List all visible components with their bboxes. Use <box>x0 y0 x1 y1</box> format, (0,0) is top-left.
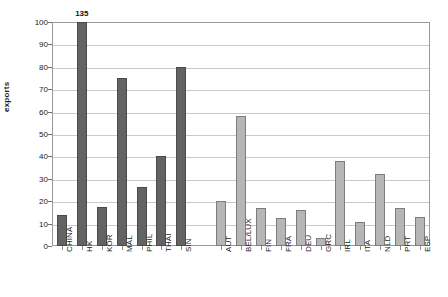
x-tick-label: CHINA <box>65 227 74 252</box>
x-tick-mark <box>321 246 322 250</box>
x-tick-label: BEL/LUX <box>244 218 253 252</box>
x-tick-mark <box>360 246 361 250</box>
x-tick-mark <box>340 246 341 250</box>
x-tick-label: FRA <box>284 236 293 252</box>
x-tick-label: FIN <box>264 239 273 252</box>
plot-area <box>52 22 430 246</box>
y-tick-mark <box>48 156 52 157</box>
y-tick-label: 0 <box>22 242 48 251</box>
bar-chart: exports 0102030405060708090100 CHINAHKKO… <box>0 0 448 297</box>
x-tick-mark <box>221 246 222 250</box>
x-tick-label: IRL <box>343 239 352 252</box>
y-tick-label: 10 <box>22 220 48 229</box>
x-tick-label: HK <box>85 241 94 252</box>
y-tick-label: 60 <box>22 108 48 117</box>
x-tick-label: PRT <box>403 236 412 252</box>
gridline <box>53 225 429 226</box>
y-tick-mark <box>48 224 52 225</box>
y-tick-label: 80 <box>22 63 48 72</box>
y-tick-mark <box>48 22 52 23</box>
y-tick-label: 50 <box>22 130 48 139</box>
gridline <box>53 90 429 91</box>
x-tick-mark <box>122 246 123 250</box>
y-tick-mark <box>48 67 52 68</box>
x-tick-mark <box>161 246 162 250</box>
x-tick-mark <box>261 246 262 250</box>
x-tick-label: THAI <box>164 233 173 252</box>
x-tick-label: PHIL <box>145 234 154 252</box>
x-tick-mark <box>62 246 63 250</box>
x-tick-label: KOR <box>105 234 114 252</box>
y-tick-mark <box>48 246 52 247</box>
y-tick-mark <box>48 179 52 180</box>
x-tick-mark <box>82 246 83 250</box>
x-tick-mark <box>400 246 401 250</box>
y-tick-mark <box>48 112 52 113</box>
bar-value-label: 135 <box>62 9 102 18</box>
x-tick-mark <box>142 246 143 250</box>
x-tick-mark <box>181 246 182 250</box>
gridline <box>53 202 429 203</box>
x-tick-label: ITA <box>363 240 372 252</box>
y-tick-mark <box>48 201 52 202</box>
x-tick-label: GRC <box>324 234 333 252</box>
x-tick-label: MAL <box>125 235 134 252</box>
gridline <box>53 113 429 114</box>
gridline <box>53 68 429 69</box>
x-tick-mark <box>102 246 103 250</box>
y-tick-mark <box>48 44 52 45</box>
x-tick-mark <box>380 246 381 250</box>
gridline <box>53 135 429 136</box>
x-tick-mark <box>301 246 302 250</box>
y-tick-label: 30 <box>22 175 48 184</box>
y-tick-mark <box>48 134 52 135</box>
x-tick-mark <box>281 246 282 250</box>
y-tick-label: 40 <box>22 152 48 161</box>
x-tick-label: DEU <box>304 235 313 252</box>
gridline <box>53 45 429 46</box>
gridline <box>53 157 429 158</box>
x-tick-mark <box>241 246 242 250</box>
x-tick-mark <box>420 246 421 250</box>
y-axis-title: exports <box>2 98 11 112</box>
x-tick-label: AUT <box>224 236 233 252</box>
x-tick-label: NLD <box>383 236 392 252</box>
y-tick-label: 20 <box>22 197 48 206</box>
x-tick-label: ESP <box>423 236 432 252</box>
y-tick-label: 100 <box>22 18 48 27</box>
y-tick-label: 90 <box>22 40 48 49</box>
y-tick-label: 70 <box>22 85 48 94</box>
x-tick-label: SIN <box>184 238 193 252</box>
y-tick-mark <box>48 89 52 90</box>
gridline <box>53 180 429 181</box>
